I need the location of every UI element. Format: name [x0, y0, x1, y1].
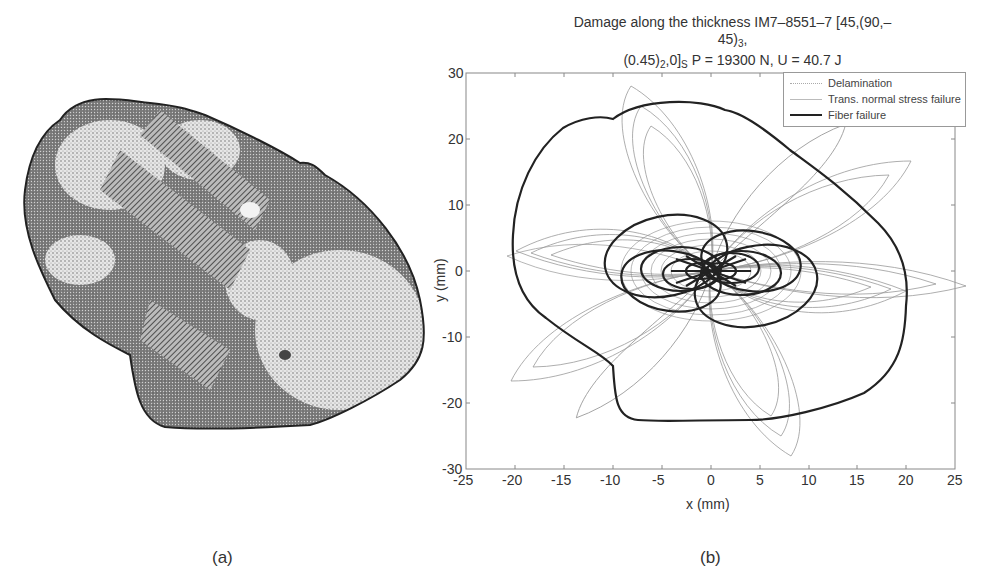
y-tick: 10	[448, 197, 464, 213]
x-tick: 25	[947, 472, 963, 488]
x-axis-label: x (mm)	[686, 496, 730, 512]
x-tick: -5	[652, 472, 664, 488]
x-tick: 15	[849, 472, 865, 488]
y-tick: -30	[442, 461, 462, 477]
legend-line-icon	[790, 114, 822, 116]
x-tick: 0	[707, 472, 715, 488]
y-tick: -20	[442, 395, 462, 411]
legend-item-trans-normal: Trans. normal stress failure	[790, 91, 961, 107]
x-tick: 20	[898, 472, 914, 488]
legend-item-delamination: Delamination	[790, 75, 892, 91]
x-tick: -15	[551, 472, 571, 488]
x-tick: -10	[600, 472, 620, 488]
x-tick: -20	[502, 472, 522, 488]
legend-line-icon	[790, 99, 822, 100]
x-tick: 10	[801, 472, 817, 488]
y-tick: 20	[448, 131, 464, 147]
y-tick: -10	[442, 329, 462, 345]
caption-b: (b)	[700, 548, 721, 568]
legend-label: Delamination	[828, 77, 892, 89]
legend-item-fiber-failure: Fiber failure	[790, 107, 886, 123]
y-axis-label: y (mm)	[432, 258, 448, 302]
x-tick: 5	[756, 472, 764, 488]
legend-label: Trans. normal stress failure	[828, 93, 961, 105]
legend-label: Fiber failure	[828, 109, 886, 121]
legend: Delamination Trans. normal stress failur…	[783, 72, 966, 127]
legend-line-icon	[790, 83, 822, 84]
y-tick: 30	[448, 65, 464, 81]
y-tick: 0	[455, 263, 463, 279]
